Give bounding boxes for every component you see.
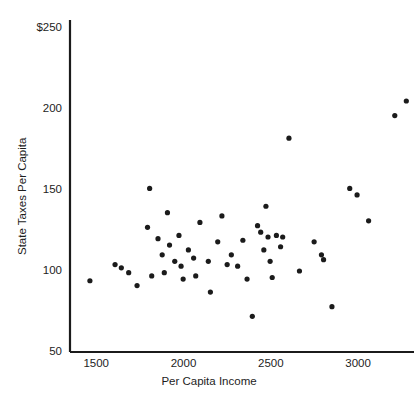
data-point (162, 270, 167, 275)
data-point (347, 186, 352, 191)
data-point (193, 273, 198, 278)
data-point (297, 268, 302, 273)
data-point (126, 270, 131, 275)
data-point (172, 259, 177, 264)
x-tick-label: 2500 (241, 357, 301, 369)
data-point (263, 204, 268, 209)
data-point (191, 255, 196, 260)
data-point (134, 283, 139, 288)
data-point (167, 243, 172, 248)
data-point (119, 265, 124, 270)
data-point (149, 273, 154, 278)
data-point (215, 239, 220, 244)
data-point (160, 252, 165, 257)
data-point (329, 304, 334, 309)
y-tick-label: 200 (14, 102, 62, 114)
data-point (197, 220, 202, 225)
data-point (268, 259, 273, 264)
data-point (255, 223, 260, 228)
data-point (274, 233, 279, 238)
y-tick-label: 50 (14, 345, 62, 357)
data-point (354, 192, 359, 197)
data-point (176, 233, 181, 238)
data-point (235, 264, 240, 269)
data-point (392, 113, 397, 118)
y-tick-label: $250 (14, 21, 62, 33)
data-point (250, 314, 255, 319)
data-point (229, 252, 234, 257)
data-point (208, 289, 213, 294)
data-point (145, 225, 150, 230)
data-point (186, 247, 191, 252)
data-point (321, 257, 326, 262)
data-point (225, 262, 230, 267)
x-tick-label: 2000 (154, 357, 214, 369)
data-point (244, 277, 249, 282)
data-point (261, 247, 266, 252)
data-point (265, 234, 270, 239)
data-point (286, 136, 291, 141)
data-point (280, 234, 285, 239)
data-point (219, 213, 224, 218)
data-point (366, 218, 371, 223)
data-point (87, 278, 92, 283)
data-point (147, 186, 152, 191)
data-point (240, 238, 245, 243)
plot-canvas (0, 0, 418, 398)
data-point (319, 252, 324, 257)
y-axis-title: State Taxes Per Capita (16, 138, 28, 255)
axes (70, 20, 414, 352)
data-point (165, 210, 170, 215)
data-points (87, 98, 409, 319)
data-point (312, 239, 317, 244)
scatter-plot-figure: 50100150200$250 1500200025003000 Per Cap… (0, 0, 418, 398)
x-axis-title: Per Capita Income (0, 375, 418, 387)
data-point (178, 264, 183, 269)
data-point (258, 230, 263, 235)
data-point (155, 236, 160, 241)
data-point (206, 259, 211, 264)
data-point (181, 277, 186, 282)
data-point (112, 262, 117, 267)
data-point (278, 244, 283, 249)
x-tick-label: 3000 (328, 357, 388, 369)
data-point (270, 275, 275, 280)
data-point (404, 98, 409, 103)
x-tick-label: 1500 (66, 357, 126, 369)
y-tick-label: 100 (14, 264, 62, 276)
